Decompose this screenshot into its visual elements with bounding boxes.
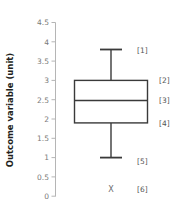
y-tick-label-0: 0: [44, 192, 49, 201]
y-axis-ticks: [52, 23, 56, 197]
y-tick-label-2: 2: [44, 115, 49, 124]
box-rect-iqr: [75, 80, 148, 123]
annotation-label-3: [3]: [159, 96, 170, 105]
y-tick-label-1-5: 1.5: [37, 134, 49, 143]
annotation-label-2: [2]: [159, 76, 170, 85]
mean-marker-x: X: [108, 185, 114, 194]
annotation-label-4: [4]: [159, 119, 170, 128]
boxplot-canvas: 4.5 4 3.5 3 2.5 2 1.5 1 0.5 0 Outcome va…: [0, 0, 185, 219]
y-tick-label-4: 4: [44, 38, 49, 47]
y-axis-tick-labels: 4.5 4 3.5 3 2.5 2 1.5 1 0.5 0: [37, 18, 49, 201]
y-tick-label-3-5: 3.5: [37, 57, 49, 66]
annotation-label-5: [5]: [137, 157, 148, 166]
annotation-label-1: [1]: [137, 46, 148, 55]
y-tick-label-0-5: 0.5: [37, 173, 49, 182]
y-axis-title: Outcome variable (unit): [5, 53, 15, 168]
y-tick-label-2-5: 2.5: [37, 96, 49, 105]
boxplot-figure: 4.5 4 3.5 3 2.5 2 1.5 1 0.5 0 Outcome va…: [0, 0, 185, 219]
boxplot-series-group-1: [75, 50, 148, 158]
y-tick-label-3: 3: [44, 76, 49, 85]
y-tick-label-1: 1: [44, 153, 49, 162]
y-tick-label-4-5: 4.5: [37, 18, 49, 27]
annotation-label-6: [6]: [137, 185, 148, 194]
